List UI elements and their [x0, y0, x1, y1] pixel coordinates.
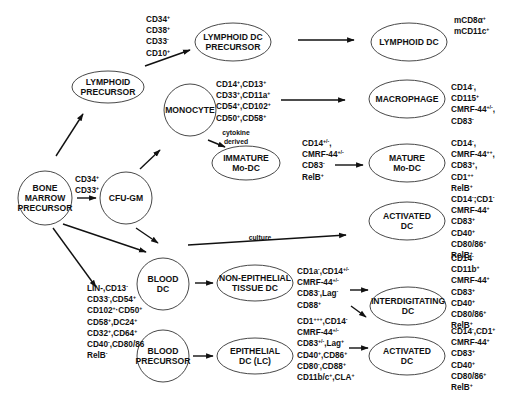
marker-line: CD40+,CD86+	[297, 350, 347, 360]
marker-line: CD11b+	[451, 264, 480, 274]
marker-line: CD54+,CD102+	[216, 101, 271, 111]
node-cfu-gm: CFU-GM	[100, 172, 152, 224]
marker-line: CD10+	[146, 48, 170, 58]
marker-line: CD40-,CD80/86	[87, 339, 145, 349]
marker-line: CD38+	[146, 25, 170, 35]
node-label: Mo-DC	[232, 163, 260, 173]
marker-line: CMRF-44+	[451, 205, 490, 215]
node-lymphoid-dc-precursor: LYMPHOID DCPRECURSOR	[195, 23, 271, 61]
marker-line: CD83-	[451, 116, 474, 126]
marker-line: CD14-;CD1-	[451, 194, 495, 204]
dendritic-cell-lineage-diagram: BONEMARROWPRECURSORLYMPHOIDPRECURSORCFU-…	[0, 0, 510, 400]
node-label: MACROPHAGE	[375, 94, 438, 104]
marker-line: CD1a-,CD14+/-	[297, 266, 349, 276]
node-label: PRECURSOR	[206, 42, 262, 52]
marker-line: CMRF-44+/-	[297, 277, 339, 287]
marker-line: CD58+,DC24+	[87, 317, 137, 327]
markers-immature-mo-dc: CD14+/-,CMRF-44+/-CD83-RelB+	[302, 138, 344, 182]
marker-line: CD80/86+	[451, 309, 486, 319]
node-label: LYMPHOID DC	[379, 37, 438, 47]
node-label: BLOOD	[147, 346, 178, 356]
node-label: INTERDIGITATING	[371, 296, 445, 306]
node-label: PRECURSOR	[136, 356, 192, 366]
node-label: MARROW	[25, 193, 66, 203]
node-label: DC	[401, 356, 413, 366]
nodes-layer: BONEMARROWPRECURSORLYMPHOIDPRECURSORCFU-…	[18, 23, 447, 382]
node-label: DC	[157, 284, 169, 294]
node-label: LYMPHOID	[86, 77, 131, 87]
marker-line: CD40+	[451, 360, 475, 370]
node-macrophage: MACROPHAGE	[369, 80, 445, 118]
marker-line: RelB+	[451, 183, 473, 193]
marker-line: CD34+	[75, 174, 99, 184]
label-cytokine-derived: derived	[224, 138, 248, 145]
marker-line: CD14+,CD13+	[216, 79, 266, 89]
label-cytokine-derived: cytokine	[222, 129, 250, 137]
node-mature-mo-dc: MATUREMo-DC	[369, 144, 445, 182]
arrow-monocyte-to-immature-mo-dc	[208, 140, 225, 147]
markers-mature-mo-dc: CD14-,CMRF-44++,CD83+,CD1++RelB+	[451, 138, 495, 193]
marker-line: mCD11c+	[454, 26, 489, 36]
markers-lymphoid-precursor: CD34+CD38+CD33-CD10+	[146, 14, 170, 58]
marker-line: CD80/86+	[451, 371, 486, 381]
marker-line: CD34+	[146, 14, 170, 24]
marker-line: CD50+,CD58+	[216, 113, 266, 123]
marker-line: CD14-,	[451, 82, 476, 92]
marker-line: CD83+	[451, 348, 475, 358]
marker-line: CD83+	[451, 216, 475, 226]
node-lymphoid-precursor: LYMPHOIDPRECURSOR	[72, 71, 144, 103]
arrow-bone-marrow-precursor-to-lymphoid-precursor	[56, 114, 83, 156]
node-label: PRECURSOR	[81, 87, 137, 97]
marker-line: CMRF-44+	[451, 337, 490, 347]
marker-line: CD33+,CD11a+	[216, 90, 270, 100]
node-label: DC (LC)	[239, 356, 271, 366]
marker-line: CD115+	[451, 93, 479, 103]
marker-line: CMRF-44+	[451, 275, 490, 285]
marker-line: CD14-,CD1+	[451, 326, 495, 336]
node-bone-marrow-precursor: BONEMARROWPRECURSOR	[18, 171, 74, 225]
marker-line: CD33-	[146, 36, 169, 46]
marker-line: CMRF-44+/-	[297, 327, 339, 337]
marker-line: CD1+++,CD14-	[297, 316, 348, 326]
arrow-non-epithelial-markers-to-activated-dc-bottom	[351, 306, 366, 317]
node-label: MATURE	[389, 153, 425, 163]
marker-line: CD83+	[451, 287, 475, 297]
arrow-cfu-gm-to-monocyte	[140, 150, 160, 169]
node-label: MONOCYTE	[165, 105, 215, 115]
node-label: PRECURSOR	[18, 203, 74, 213]
marker-line: CD83+/-,Lag+	[297, 338, 344, 348]
node-label: IMMATURE	[223, 153, 269, 163]
marker-line: CD14+/-,	[302, 138, 331, 148]
marker-line: CD80-,CD88+	[297, 361, 346, 371]
markers-epithelial: CD1+++,CD14-CMRF-44+/-CD83+/-,Lag+CD40+,…	[297, 316, 354, 382]
marker-line: RelB-	[87, 350, 108, 360]
node-interdigitating-dc: INTERDIGITATINGDC	[370, 287, 446, 325]
node-non-epithelial-tissue-dc: NON-EPITHELIALTISSUE DC	[217, 265, 293, 301]
marker-line: CD83+,	[451, 160, 477, 170]
arrow-bone-marrow-precursor-to-blood-dc-markers	[53, 228, 96, 287]
marker-line: CD40+	[451, 228, 475, 238]
node-label: Mo-DC	[393, 163, 421, 173]
node-immature-mo-dc: IMMATUREMo-DC	[212, 146, 280, 180]
node-label: LYMPHOID DC	[203, 32, 262, 42]
node-epithelial-dc-lc: EPITHELIALDC (LC)	[217, 338, 293, 374]
markers-blood-dc: LIN-,CD13-CD33-,CD54+CD102+·CD50+CD58+,D…	[87, 283, 145, 360]
marker-line: CD14-	[451, 253, 474, 263]
markers-macrophage: CD14-,CD115+CMRF-44+/-,CD83-	[451, 82, 495, 126]
node-activated-dc-bottom: ACTIVATEDDC	[369, 337, 445, 375]
marker-line: CD88+	[297, 300, 321, 310]
node-label: TISSUE DC	[232, 283, 278, 293]
marker-line: CD14-,	[451, 138, 476, 148]
node-lymphoid-dc: LYMPHOID DC	[371, 23, 447, 61]
marker-line: CD33-,CD54+	[87, 294, 136, 304]
markers-interdigitating-dc: CD14-CD11b+CMRF-44+CD83+CD40+CD80/86+Rel…	[451, 253, 490, 330]
markers-cfu-gm: CD34+CD33+	[75, 174, 99, 195]
markers-lymphoid-dc: mCD8α+mCD11c+	[454, 15, 489, 36]
marker-line: LIN-,CD13-	[87, 283, 128, 293]
marker-line: CD33+	[75, 185, 99, 195]
marker-line: CMRF-44++,	[451, 149, 495, 159]
node-label: DC	[401, 221, 413, 231]
node-activated-dc-top: ACTIVATEDDC	[369, 202, 445, 240]
node-label: EPITHELIAL	[230, 346, 280, 356]
label-culture: culture	[249, 234, 272, 241]
